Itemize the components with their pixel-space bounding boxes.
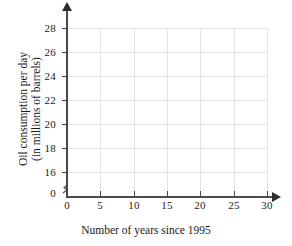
y-axis-title-line-2: (in millions of barrels)	[30, 19, 43, 199]
y-tick-24	[62, 76, 68, 77]
gridline-x-10	[134, 28, 135, 197]
plot-area	[67, 28, 267, 197]
y-axis-line	[66, 10, 68, 198]
x-tick-10	[134, 191, 135, 197]
y-tick-20	[62, 124, 68, 125]
x-tick-25	[234, 191, 235, 197]
x-axis-title: Number of years since 1995	[0, 224, 292, 237]
x-tick-label-20: 20	[185, 199, 215, 211]
y-axis-title: Oil consumption per day (in millions of …	[17, 19, 43, 199]
y-tick-16	[62, 172, 68, 173]
x-tick-15	[167, 191, 168, 197]
gridline-x-30	[267, 28, 268, 197]
x-tick-30	[267, 191, 268, 197]
x-tick-label-15: 15	[152, 199, 182, 211]
y-tick-22	[62, 100, 68, 101]
x-tick-label-25: 25	[219, 199, 249, 211]
x-tick-label-0: 0	[52, 199, 82, 211]
gridline-x-5	[100, 28, 101, 197]
chart-figure: 28 26 24 22 20 18 16 0 0 5 10 15 20 25 3…	[0, 0, 292, 246]
x-tick-20	[200, 191, 201, 197]
gridline-x-25	[234, 28, 235, 197]
y-axis-title-line-1: Oil consumption per day	[17, 19, 30, 199]
x-tick-label-10: 10	[119, 199, 149, 211]
x-tick-5	[100, 191, 101, 197]
y-tick-26	[62, 52, 68, 53]
x-tick-label-30: 30	[252, 199, 282, 211]
gridline-x-20	[200, 28, 201, 197]
x-axis-line	[66, 196, 274, 198]
x-tick-label-5: 5	[85, 199, 115, 211]
y-axis-arrow-icon	[62, 2, 72, 11]
x-tick-0	[67, 191, 68, 197]
y-tick-28	[62, 28, 68, 29]
y-tick-18	[62, 148, 68, 149]
gridline-x-15	[167, 28, 168, 197]
